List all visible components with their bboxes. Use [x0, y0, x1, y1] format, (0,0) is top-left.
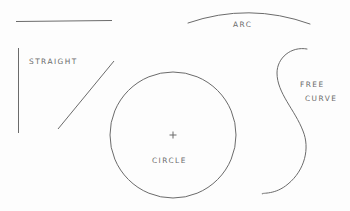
- label-free-curve-line1: FREE: [300, 81, 325, 88]
- geometry-figure: [0, 0, 350, 211]
- label-arc: ARC: [233, 21, 252, 28]
- circle-center-cross-icon: [170, 132, 177, 139]
- label-straight: STRAIGHT: [29, 58, 78, 65]
- diagonal-straight-line: [58, 61, 114, 129]
- label-circle: CIRCLE: [152, 157, 187, 164]
- drawing-canvas: STRAIGHT ARC CIRCLE FREE CURVE: [0, 0, 350, 211]
- label-free-curve-line2: CURVE: [305, 95, 337, 102]
- horizontal-straight-line: [16, 21, 112, 22]
- free-form-s-curve: [262, 49, 307, 194]
